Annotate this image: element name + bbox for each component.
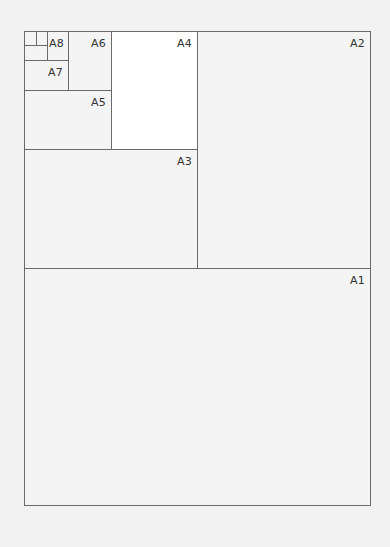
sheet-a4: A4	[111, 31, 198, 150]
label-a5: A5	[91, 97, 106, 108]
label-a4: A4	[177, 38, 192, 49]
label-a8: A8	[49, 38, 64, 49]
sheet-a6: A6	[68, 31, 112, 91]
label-a6: A6	[91, 38, 106, 49]
sheet-a7: A7	[24, 60, 69, 91]
sheet-a5: A5	[24, 90, 112, 150]
sheet-a8: A8	[47, 31, 69, 61]
sheet-a1: A1	[24, 268, 371, 506]
label-a3: A3	[177, 156, 192, 167]
sheet-a3: A3	[24, 149, 198, 269]
sheet-a10	[36, 31, 48, 46]
sheet-a9	[24, 45, 48, 61]
sheet-a2: A2	[197, 31, 371, 269]
label-a1: A1	[350, 275, 365, 286]
label-a2: A2	[350, 38, 365, 49]
label-a7: A7	[48, 67, 63, 78]
